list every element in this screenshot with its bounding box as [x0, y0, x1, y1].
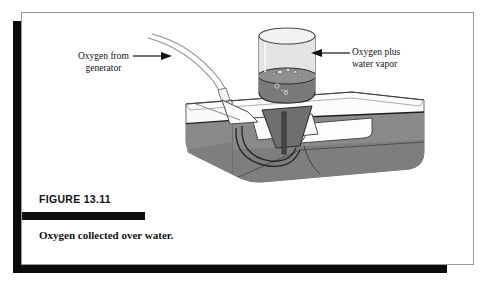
label-oxygen-from-generator: Oxygen from generator — [78, 50, 129, 74]
figure-number: FIGURE 13.11 — [39, 193, 111, 205]
annotation-arrows — [133, 49, 350, 60]
label-oxygen-plus-water-vapor: Oxygen plus water vapor — [352, 46, 400, 70]
delivery-tube-edge-inner — [152, 34, 226, 90]
figure-page: Oxygen from generator Oxygen plus water … — [0, 0, 492, 290]
label-left-line2: generator — [78, 62, 129, 74]
left-arrow-head — [161, 52, 172, 60]
label-right-line1: Oxygen plus — [352, 46, 400, 58]
label-right-line2: water vapor — [352, 58, 400, 70]
label-left-line1: Oxygen from — [78, 50, 129, 62]
apparatus-illustration — [0, 0, 492, 290]
cylinder-top — [259, 28, 315, 44]
delivery-tube-edge-outer — [148, 38, 220, 92]
stand-stem — [282, 112, 286, 154]
delivery-tube-tip — [218, 88, 230, 102]
gas-cylinder — [255, 28, 321, 110]
figure-caption: Oxygen collected over water. — [39, 229, 173, 241]
figure-rule-bar — [22, 212, 145, 220]
